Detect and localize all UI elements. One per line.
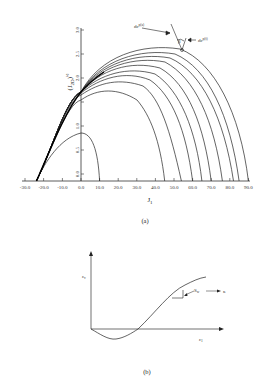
- y-tick-label: 1.0: [75, 122, 80, 129]
- x-tick-label: 30.0: [132, 185, 141, 190]
- b-y-axis-label: εv: [82, 274, 86, 280]
- x-tick-label: -10.0: [57, 185, 68, 190]
- sw-label: Sw: [194, 288, 200, 294]
- x-tick-label: 40.0: [151, 185, 160, 190]
- x-tick-label: 60.0: [188, 185, 197, 190]
- x-tick-label: 80.0: [225, 185, 234, 190]
- panel-b-diagram: Sw κ εv ε1 (b): [82, 251, 226, 376]
- y-tick-label: 2.5: [75, 50, 80, 57]
- panel-a-chart: -30.0 -20.0 -10.0 0.0 10.0 20.0 30.0 40.…: [20, 23, 253, 225]
- curve-1: [36, 133, 99, 181]
- yield-curves: [36, 48, 248, 181]
- y-tick-label: 0.0: [75, 170, 80, 177]
- volumetric-strain-curve: [91, 277, 206, 339]
- panel-b-caption: (b): [143, 368, 151, 376]
- x-ticks: [25, 178, 248, 181]
- y-tick-label: 3.0: [75, 26, 80, 33]
- curve-10: [36, 48, 248, 181]
- x-tick-label: 70.0: [207, 185, 216, 190]
- x-tick-label: 90.0: [244, 185, 253, 190]
- y-axis-label: (J2D)½: [65, 73, 75, 91]
- x-tick-label: -30.0: [20, 185, 31, 190]
- x-tick-label: 0.0: [78, 185, 85, 190]
- sw-pointer-arrow-icon: [184, 293, 188, 296]
- x-tick-labels: -30.0 -20.0 -10.0 0.0 10.0 20.0 30.0 40.…: [20, 185, 253, 190]
- figure: -30.0 -20.0 -10.0 0.0 10.0 20.0 30.0 40.…: [0, 0, 266, 385]
- beta-label: β: [178, 39, 181, 44]
- x-axis-label: J1: [147, 196, 153, 205]
- b-y-arrow-icon: [89, 251, 93, 256]
- x-tick-label: 50.0: [170, 185, 179, 190]
- b-x-arrow-icon: [219, 327, 224, 331]
- y-tick-label: 2.0: [75, 74, 80, 81]
- kappa-arrow-icon: [217, 290, 221, 293]
- x-tick-label: -20.0: [38, 185, 49, 190]
- dep-t-label: dεp(t): [198, 37, 208, 43]
- kappa-label: κ: [223, 289, 226, 294]
- x-tick-label: 20.0: [114, 185, 123, 190]
- x-tick-label: 10.0: [95, 185, 104, 190]
- curve-9: [36, 53, 239, 181]
- y-tick-label: 0.5: [75, 146, 80, 153]
- strain-increment-annotation: [142, 24, 196, 52]
- b-x-axis-label: ε1: [199, 337, 203, 343]
- y-ticks: [81, 30, 84, 174]
- curve-7: [36, 60, 222, 181]
- panel-a-caption: (a): [141, 217, 148, 225]
- slope-triangle: [172, 290, 183, 298]
